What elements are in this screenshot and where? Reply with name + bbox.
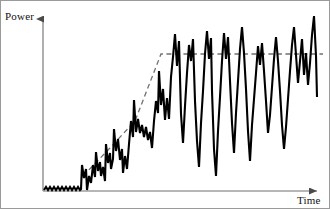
power-signal-line [44, 16, 317, 190]
y-axis-label: Power [5, 10, 34, 22]
power-vs-time-figure: Power Time [0, 0, 330, 209]
x-axis-label: Time [297, 194, 321, 206]
plot-canvas [1, 1, 330, 209]
